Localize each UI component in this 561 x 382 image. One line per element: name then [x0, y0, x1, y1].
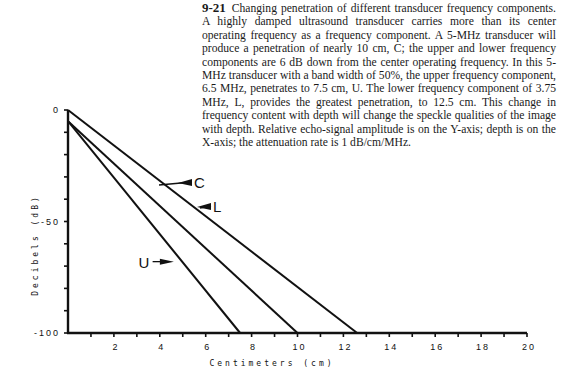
x-axis-label: Centimeters (cm)	[209, 359, 334, 368]
x-tick-label: 12	[338, 342, 352, 352]
x-tick-label: 16	[430, 342, 444, 352]
attenuation-chart: 0-50-1002468101214161820 CLU Decibels (d…	[0, 0, 561, 382]
chart-axes	[67, 110, 527, 334]
x-tick-label: 20	[522, 342, 536, 352]
arrow-head-icon	[197, 203, 211, 210]
y-tick-label: -50	[41, 217, 60, 227]
y-axis-label: Decibels (dB)	[31, 194, 40, 296]
x-tick-label: 4	[158, 342, 165, 352]
x-tick-label: 10	[292, 342, 306, 352]
x-tick-label: 18	[476, 342, 490, 352]
x-tick-label: 6	[204, 342, 211, 352]
arrow-head-icon	[160, 259, 174, 265]
series-line-c	[68, 121, 298, 333]
chart-series	[68, 110, 357, 333]
arrow-head-icon	[178, 179, 192, 186]
series-label-c: C	[194, 174, 205, 191]
series-label-u: U	[139, 254, 150, 271]
y-tick-label: -100	[34, 328, 60, 338]
series-label-l: L	[213, 198, 221, 215]
x-tick-label: 8	[250, 342, 257, 352]
series-line-u	[68, 121, 240, 333]
x-tick-label: 14	[384, 342, 398, 352]
x-tick-label: 2	[112, 342, 119, 352]
y-tick-label: 0	[53, 105, 60, 115]
